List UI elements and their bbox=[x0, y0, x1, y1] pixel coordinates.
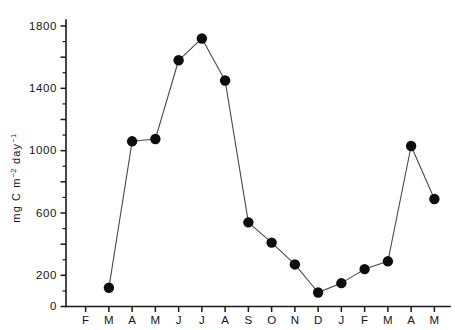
chart-container: mg C m−2 day−1 0200600100014001800 FMAMJ… bbox=[0, 0, 455, 330]
data-point bbox=[290, 259, 300, 269]
y-tick-label: 1400 bbox=[29, 82, 57, 94]
data-point bbox=[266, 237, 276, 247]
x-tick-label: D bbox=[314, 314, 322, 326]
data-point bbox=[406, 141, 416, 151]
data-point bbox=[383, 256, 393, 266]
x-tick-label: J bbox=[339, 314, 345, 326]
x-tick-label: A bbox=[128, 314, 136, 326]
x-tick-label: M bbox=[151, 314, 161, 326]
x-tick-label: M bbox=[430, 314, 440, 326]
y-axis-tick-labels: 0200600100014001800 bbox=[29, 20, 57, 313]
line-chart: mg C m−2 day−1 0200600100014001800 FMAMJ… bbox=[0, 0, 455, 330]
data-series-markers bbox=[104, 33, 440, 297]
data-point bbox=[127, 136, 137, 146]
data-point bbox=[359, 264, 369, 274]
y-tick-label: 200 bbox=[36, 269, 57, 281]
x-axis-tick-labels: FMAMJJASONDJFMAM bbox=[82, 314, 439, 326]
y-axis-title-sup1: −2 bbox=[9, 168, 18, 177]
data-point bbox=[197, 33, 207, 43]
x-tick-label: A bbox=[407, 314, 415, 326]
x-tick-label: F bbox=[361, 314, 368, 326]
data-point bbox=[220, 75, 230, 85]
y-tick-label: 1000 bbox=[29, 144, 57, 156]
data-point bbox=[150, 134, 160, 144]
y-tick-label: 1800 bbox=[29, 20, 57, 32]
x-tick-label: J bbox=[176, 314, 182, 326]
x-tick-label: M bbox=[383, 314, 393, 326]
data-point bbox=[336, 278, 346, 288]
data-point bbox=[104, 283, 114, 293]
y-tick-label: 600 bbox=[36, 207, 57, 219]
y-axis-title-text: mg C m−2 day−1 bbox=[9, 133, 23, 222]
x-tick-label: F bbox=[82, 314, 89, 326]
y-tick-label: 0 bbox=[50, 300, 57, 312]
x-tick-label: O bbox=[267, 314, 276, 326]
x-tick-label: N bbox=[291, 314, 299, 326]
x-tick-label: A bbox=[221, 314, 229, 326]
data-point bbox=[313, 287, 323, 297]
y-axis-title: mg C m−2 day−1 bbox=[9, 133, 23, 222]
data-point bbox=[243, 217, 253, 227]
x-axis-ticks bbox=[86, 307, 435, 313]
x-tick-label: S bbox=[245, 314, 253, 326]
data-point bbox=[429, 194, 439, 204]
data-series-line bbox=[109, 38, 435, 292]
y-axis-title-base1: mg C m bbox=[10, 178, 22, 223]
y-axis-ticks bbox=[61, 26, 67, 307]
y-axis-title-base2: day bbox=[10, 143, 22, 168]
x-tick-label: J bbox=[199, 314, 205, 326]
data-point bbox=[173, 55, 183, 65]
y-axis-title-sup2: −1 bbox=[9, 133, 18, 142]
x-tick-label: M bbox=[104, 314, 114, 326]
